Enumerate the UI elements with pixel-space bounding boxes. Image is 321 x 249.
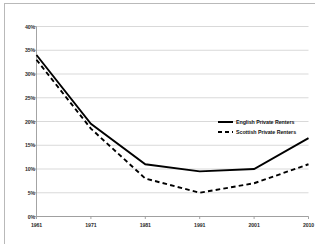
x-tick-label-1981: 1981 [140, 222, 151, 228]
chart-figure-frame: 40%35%30%25%20%15%10%5%0% 19611971198119… [4, 3, 315, 244]
x-tick-label-2001: 2001 [249, 222, 260, 228]
legend-label-english: English Private Renters [236, 119, 294, 125]
legend-item-english: English Private Renters [217, 117, 312, 127]
x-tick-label-1961: 1961 [31, 222, 42, 228]
x-tick-label-1991: 1991 [194, 222, 205, 228]
legend-label-scottish: Scottish Private Renters [236, 129, 296, 135]
x-tick-label-1971: 1971 [85, 222, 96, 228]
chart-legend: English Private Renters Scottish Private… [217, 117, 312, 137]
legend-solid-line-icon [217, 118, 234, 126]
legend-item-scottish: Scottish Private Renters [217, 127, 312, 137]
x-tick-label-2010: 2010 [303, 222, 314, 228]
legend-dashed-line-icon [217, 128, 234, 136]
